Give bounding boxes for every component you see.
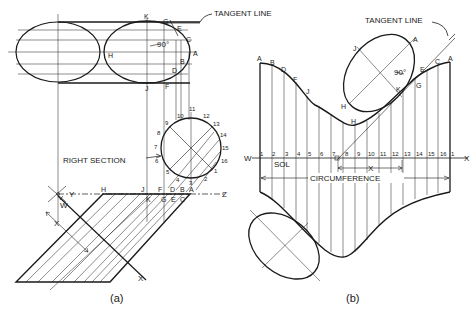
sol-label: SOL (274, 160, 291, 169)
dim-label-x-a: X (54, 219, 60, 228)
point-h: H (108, 52, 113, 59)
point-c: C (186, 36, 191, 43)
circle-number: 7 (154, 144, 158, 150)
circle-number: 8 (157, 130, 161, 136)
point-k: K (144, 13, 149, 20)
ellipse-label-k: K (396, 86, 401, 93)
edge-label-f: F (158, 186, 162, 193)
curve-label-h: H (351, 118, 356, 125)
stretch-number: 8 (345, 151, 349, 157)
circle-number: 2 (204, 176, 208, 182)
angle-label-b: 90° (394, 68, 406, 77)
axis-label-w: W (60, 201, 68, 210)
right-section-circle (146, 112, 221, 192)
circle-number: 14 (220, 132, 227, 138)
curve-label-a-end: A (448, 55, 453, 62)
axis-label-x-b: X (464, 154, 470, 163)
stretch-number: 1 (260, 151, 264, 157)
tangent-line-label-b: TANGENT LINE (365, 16, 423, 25)
stretch-number: 14 (416, 151, 423, 157)
panel-b-labels: TANGENT LINE 90° A B D F J H E C A J A H… (244, 16, 470, 304)
circle-number: 6 (155, 158, 159, 164)
edge-label-b: B (180, 186, 185, 193)
stretch-number: 10 (368, 151, 375, 157)
circle-number: 5 (166, 169, 170, 175)
caption-a: (a) (110, 292, 123, 304)
edge-label-c: C (180, 196, 185, 203)
point-b: B (180, 58, 185, 65)
curve-label-e: E (420, 66, 425, 73)
circle-number: 4 (176, 177, 180, 183)
stretch-number: 15 (428, 151, 435, 157)
circle-number: 16 (221, 158, 228, 164)
stretch-number: 9 (357, 151, 361, 157)
ellipse-label-g: G (416, 82, 421, 89)
edge-label-j: J (141, 186, 145, 193)
axis-label-y: Y (69, 190, 75, 199)
edge-label-a: A (189, 186, 194, 193)
dim-label-x-b: X (368, 164, 374, 173)
stretch-number: 3 (285, 151, 289, 157)
edge-label-d: D (170, 186, 175, 193)
circumference-label: CIRCUMFERENCE (310, 174, 380, 183)
circle-number: 11 (189, 106, 196, 112)
axis-label-x-a: X (138, 274, 144, 283)
drawing-canvas: TANGENT LINE 90° K G E C A B D F J H 11 … (0, 0, 475, 311)
stretch-number: 11 (380, 151, 387, 157)
stretch-number: 5 (308, 151, 312, 157)
caption-b: (b) (346, 292, 359, 304)
curve-label-b: B (270, 59, 275, 66)
curve-label-c: C (435, 58, 440, 65)
curve-label-f: F (293, 76, 297, 83)
point-g: G (163, 18, 168, 25)
point-a: A (193, 50, 198, 57)
curve-label-a: A (257, 55, 262, 62)
circle-number: 13 (213, 121, 220, 127)
development-drawing: TANGENT LINE 90° K G E C A B D F J H 11 … (0, 0, 475, 311)
point-j: J (145, 85, 149, 92)
stretch-number: 13 (404, 151, 411, 157)
tangent-line-label-a: TANGENT LINE (214, 9, 272, 18)
stretch-number: 4 (297, 151, 301, 157)
stretch-number: 12 (392, 151, 399, 157)
axis-label-w-b: W (244, 154, 252, 163)
stretch-number: 2 (272, 151, 276, 157)
axis-label-h: H (101, 186, 106, 193)
ellipse-label-h: H (341, 103, 346, 110)
edge-label-e: E (171, 196, 176, 203)
curve-label-j: J (306, 88, 310, 95)
panel-b-bottom-ellipse (236, 200, 332, 293)
point-e: E (177, 25, 182, 32)
circle-number: 10 (177, 113, 184, 119)
right-section-label: RIGHT SECTION (63, 156, 126, 165)
axis-label-z: Z (222, 190, 227, 199)
ellipse-label-a: A (413, 36, 418, 43)
point-d: D (172, 67, 177, 74)
point-f: F (165, 83, 169, 90)
edge-label-k: K (146, 196, 151, 203)
circle-number: 12 (203, 113, 210, 119)
circle-number: 15 (222, 145, 229, 151)
circle-number: 9 (165, 120, 169, 126)
edge-label-g: G (161, 196, 166, 203)
circle-number: 1 (214, 168, 218, 174)
ellipse-label-j: J (353, 45, 357, 52)
curve-label-d: D (281, 66, 286, 73)
stretch-number: 6 (320, 151, 324, 157)
stretch-number: 16 (440, 151, 447, 157)
stretch-number: 1 (451, 151, 455, 157)
angle-label-a: 90° (157, 40, 169, 49)
